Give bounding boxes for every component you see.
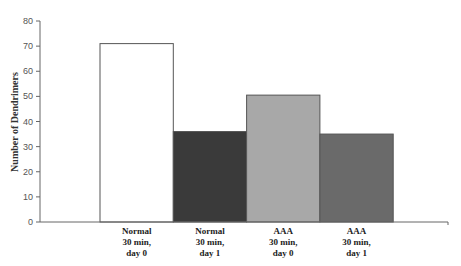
x-category-label: 30 min,: [196, 237, 225, 247]
y-tick-label: 70: [23, 41, 33, 51]
y-tick-label: 40: [23, 117, 33, 127]
bar: [320, 134, 393, 222]
y-tick-label: 80: [23, 16, 33, 26]
x-category-label: 30 min,: [342, 237, 371, 247]
x-category-label: Normal: [122, 226, 152, 236]
bars: [100, 44, 393, 222]
x-category-label: AAA: [347, 226, 367, 236]
y-tick-label: 30: [23, 142, 33, 152]
bar-chart: 01020304050607080 Normal30 min,day 0Norm…: [0, 0, 461, 266]
x-category-label: AAA: [274, 226, 294, 236]
x-category-label: day 1: [200, 248, 221, 258]
x-category-label: day 0: [126, 248, 147, 258]
x-axis: Normal30 min,day 0Normal30 min,day 1AAA3…: [40, 222, 448, 258]
y-tick-label: 0: [28, 217, 33, 227]
y-axis: 01020304050607080: [23, 16, 40, 227]
x-category-label: day 0: [273, 248, 294, 258]
bar: [247, 95, 320, 222]
x-category-label: day 1: [346, 248, 367, 258]
x-category-label: 30 min,: [269, 237, 298, 247]
y-tick-label: 60: [23, 66, 33, 76]
bar: [100, 44, 173, 222]
x-category-label: 30 min,: [122, 237, 151, 247]
y-tick-label: 20: [23, 167, 33, 177]
y-tick-label: 10: [23, 192, 33, 202]
x-category-label: Normal: [195, 226, 225, 236]
y-axis-label: Number of Dendrimers: [9, 72, 20, 172]
y-tick-label: 50: [23, 91, 33, 101]
bar: [173, 132, 246, 222]
